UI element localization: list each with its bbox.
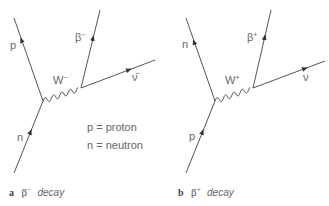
caption-a: a β− decay bbox=[9, 178, 65, 199]
caption-b: b β+ decay bbox=[178, 178, 235, 199]
label-p: p bbox=[10, 39, 16, 51]
label-beta-minus: β− bbox=[75, 31, 85, 43]
label-neutrino: ν bbox=[303, 71, 309, 83]
neutron-line bbox=[186, 18, 215, 101]
label-n: n bbox=[182, 38, 188, 50]
beta-plus-line bbox=[253, 10, 271, 88]
diagram-beta-plus: n p W+ β+ ν b β+ decay bbox=[178, 10, 325, 199]
diagram-beta-minus: p n W− β− ν̄ p = proton n = neutron a β−… bbox=[9, 10, 155, 199]
label-w-plus: W+ bbox=[225, 74, 239, 86]
antineutrino-line bbox=[81, 60, 155, 88]
legend-neutron: n = neutron bbox=[87, 139, 143, 151]
feynman-diagrams: p n W− β− ν̄ p = proton n = neutron a β−… bbox=[0, 0, 329, 206]
label-p: p bbox=[189, 130, 195, 142]
label-w-minus: W− bbox=[53, 74, 67, 86]
w-boson-wiggle bbox=[215, 87, 250, 101]
neutrino-line bbox=[253, 61, 325, 88]
beta-minus-line bbox=[81, 10, 100, 88]
label-beta-plus: β+ bbox=[247, 31, 257, 43]
label-n: n bbox=[17, 131, 23, 143]
proton-line bbox=[14, 18, 43, 101]
legend-proton: p = proton bbox=[87, 121, 137, 133]
label-antineutrino: ν̄ bbox=[132, 71, 140, 83]
w-boson-wiggle bbox=[43, 87, 78, 101]
